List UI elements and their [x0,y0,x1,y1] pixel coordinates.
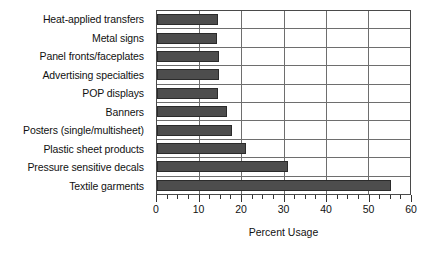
bar-rows [157,11,410,194]
bar-row [157,85,410,103]
minor-tick [358,195,359,199]
minor-tick [230,195,231,199]
tick-label: 20 [235,203,247,215]
bar [157,14,218,25]
category-label: Advertising specialties [0,66,150,85]
category-label: Textile garments [0,177,150,196]
category-label: Plastic sheet products [0,140,150,159]
major-tick [156,195,157,202]
minor-tick [188,195,189,199]
bar-row [157,158,410,176]
category-label: Panel fronts/faceplates [0,47,150,66]
minor-tick [252,195,253,199]
plot-area [156,10,411,195]
bar [157,161,288,172]
major-tick [199,195,200,202]
major-tick [284,195,285,202]
bar [157,88,218,99]
tick-label: 60 [405,203,417,215]
category-label: Pressure sensitive decals [0,158,150,177]
minor-tick [337,195,338,199]
bar-row [157,103,410,121]
category-label: POP displays [0,84,150,103]
tick-label: 30 [278,203,290,215]
bar [157,106,227,117]
minor-tick [305,195,306,199]
minor-tick [209,195,210,199]
minor-tick [273,195,274,199]
major-tick [241,195,242,202]
category-label-column: Heat-applied transfersMetal signsPanel f… [0,10,150,195]
minor-tick [167,195,168,199]
minor-tick [262,195,263,199]
x-axis-title: Percent Usage [156,226,411,238]
major-tick [411,195,412,202]
category-label: Heat-applied transfers [0,10,150,29]
tick-label: 40 [320,203,332,215]
bar-row [157,48,410,66]
tick-label: 50 [363,203,375,215]
bar-row [157,121,410,139]
minor-tick [379,195,380,199]
x-axis-tick-labels: 0102030405060 [156,203,411,219]
bar-row [157,177,410,194]
category-label: Banners [0,103,150,122]
bar-chart: Heat-applied transfersMetal signsPanel f… [0,0,434,265]
major-tick [326,195,327,202]
minor-tick [315,195,316,199]
minor-tick [347,195,348,199]
bar-row [157,140,410,158]
minor-tick [390,195,391,199]
minor-tick [220,195,221,199]
bar [157,51,219,62]
bar [157,69,219,80]
bar-row [157,66,410,84]
minor-tick [177,195,178,199]
bar [157,143,246,154]
tick-label: 0 [153,203,159,215]
bar [157,180,391,191]
bar [157,33,217,44]
category-label: Metal signs [0,29,150,48]
tick-label: 10 [193,203,205,215]
major-tick [369,195,370,202]
category-label: Posters (single/multisheet) [0,121,150,140]
minor-tick [400,195,401,199]
bar-row [157,29,410,47]
bar-row [157,11,410,29]
bar [157,125,232,136]
minor-tick [294,195,295,199]
